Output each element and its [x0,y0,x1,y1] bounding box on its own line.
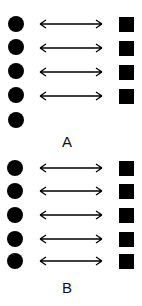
square [119,89,134,104]
square [119,254,134,269]
double-arrow-icon [38,67,104,77]
circle [7,231,23,247]
group-label-b: B [57,279,77,296]
square [119,17,134,32]
square [119,41,134,56]
double-arrow-icon [38,186,104,196]
double-arrow-icon [38,19,104,29]
circle [8,87,24,103]
circle [8,63,24,79]
circle [7,207,23,223]
circle [7,183,23,199]
group-label-a: A [57,133,77,150]
square [119,208,134,223]
circle [7,160,23,176]
double-arrow-icon [38,43,104,53]
circle [7,253,23,269]
double-arrow-icon [38,234,104,244]
square [119,65,134,80]
circle [8,39,24,55]
double-arrow-icon [38,210,104,220]
square [119,232,134,247]
double-arrow-icon [38,256,104,266]
double-arrow-icon [38,163,104,173]
double-arrow-icon [38,91,104,101]
square [119,184,134,199]
circle [8,16,24,32]
square [119,161,134,176]
circle [8,112,24,128]
